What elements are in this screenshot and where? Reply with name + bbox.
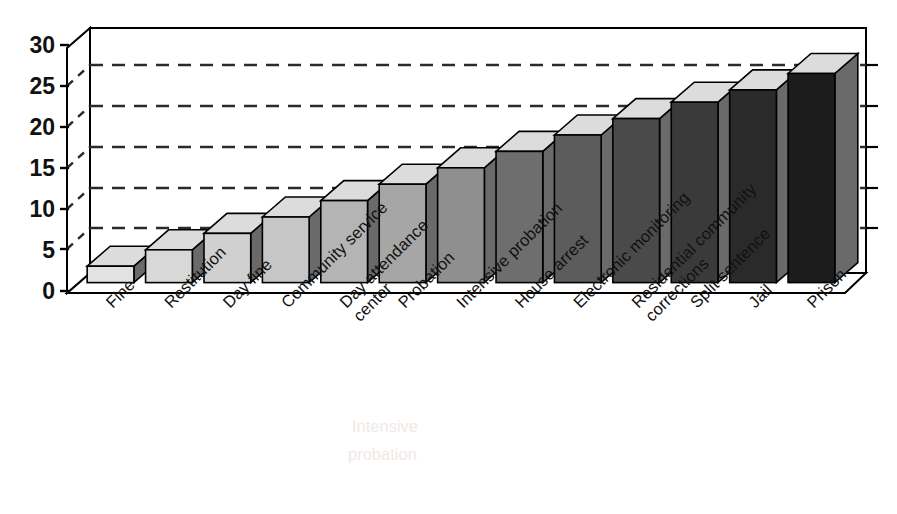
y-axis-label-30: 30 <box>29 32 55 58</box>
y-axis-labels: 30 25 20 15 10 5 0 <box>29 32 55 304</box>
y-axis-ticks-right <box>866 65 878 228</box>
left-wall <box>67 28 90 293</box>
bar-front-face <box>788 74 835 283</box>
ghost-bleed-text: Intensive probation <box>348 417 418 463</box>
bar-chart-3d: Intensive probation <box>0 0 897 514</box>
bar-side-face <box>835 54 858 283</box>
chart-container: Intensive probation <box>0 0 897 514</box>
ghost-text-line1: Intensive <box>352 417 418 435</box>
bar-12 <box>788 54 858 283</box>
y-axis-label-5: 5 <box>42 237 55 263</box>
y-axis-label-15: 15 <box>29 155 55 181</box>
ghost-text-line2: probation <box>348 445 417 463</box>
y-axis-label-20: 20 <box>29 114 55 140</box>
y-axis-label-0: 0 <box>42 278 55 304</box>
y-axis-label-25: 25 <box>29 73 55 99</box>
y-axis-label-10: 10 <box>29 196 55 222</box>
